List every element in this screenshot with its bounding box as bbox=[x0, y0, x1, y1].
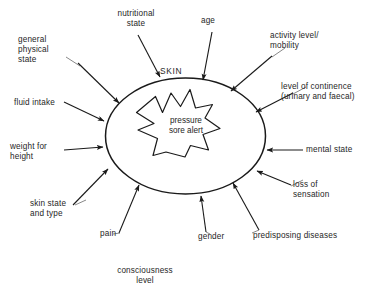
arrow-general-physical-state bbox=[78, 63, 119, 103]
label-gender: gender bbox=[198, 232, 238, 242]
label-nutritional-state: nutritional state bbox=[108, 9, 164, 29]
label-pain: pain bbox=[100, 229, 132, 239]
arrow-predisposing-diseases bbox=[233, 183, 259, 230]
arrow-age bbox=[203, 32, 212, 80]
pressure-sore-alert-label: pressure sore alert bbox=[148, 116, 224, 137]
label-mental-state: mental state bbox=[306, 145, 376, 155]
arrow-nutritional-state bbox=[138, 35, 160, 77]
label-consciousness-level: consciousness level bbox=[105, 266, 185, 286]
label-predisposing-diseases: predisposing diseases bbox=[253, 231, 363, 241]
label-level-of-continence: level of continence (urinary and faecal) bbox=[281, 82, 381, 102]
arrow-activity-level bbox=[231, 56, 272, 91]
arrow-weight-for-height bbox=[64, 147, 103, 150]
label-weight-for-height: weight for height bbox=[10, 142, 68, 162]
label-skin-state-and-type: skin state and type bbox=[30, 199, 94, 219]
label-general-physical-state: general physical state bbox=[18, 35, 78, 66]
arrow-gender bbox=[201, 196, 206, 232]
pressure-sore-alert-diagram: nutritional state age activity level/ mo… bbox=[0, 0, 381, 298]
skin-label: SKIN bbox=[160, 66, 182, 76]
label-fluid-intake: fluid intake bbox=[14, 98, 72, 108]
arrow-loss-of-sensation bbox=[257, 171, 291, 185]
label-loss-of-sensation: loss of sensation bbox=[293, 180, 353, 200]
label-age: age bbox=[192, 16, 224, 26]
arrow-pain bbox=[119, 185, 139, 233]
label-activity-level: activity level/ mobility bbox=[270, 31, 360, 51]
